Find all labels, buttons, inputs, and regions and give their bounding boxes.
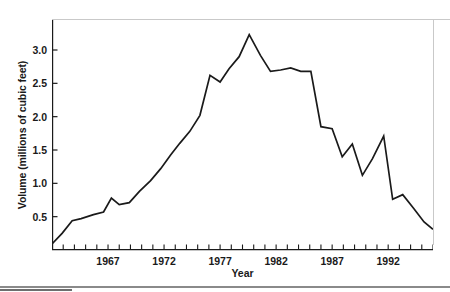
- x-tick-label: 1977: [200, 256, 240, 267]
- y-tick-label: 2.0: [21, 112, 47, 122]
- x-tick-label: 1982: [256, 256, 296, 267]
- x-tick-label: 1972: [144, 256, 184, 267]
- figure-bottom-rule: [0, 286, 450, 288]
- y-tick-label: 1.5: [21, 145, 47, 155]
- line-chart-svg: [52, 20, 433, 252]
- x-tick-label: 1987: [312, 256, 352, 267]
- y-tick-label: 0.5: [21, 212, 47, 222]
- figure-right-rule: [433, 19, 434, 245]
- data-series-volume: [52, 35, 433, 244]
- figure-bottom-rule-accent: [0, 289, 72, 291]
- y-tick-label: 1.0: [21, 178, 47, 188]
- y-tick-label: 2.5: [21, 78, 47, 88]
- plot-area: Volume (millions of cubic feet) 0.51.01.…: [52, 20, 433, 250]
- x-tick-label: 1992: [368, 256, 408, 267]
- x-tick-label: 1967: [88, 256, 128, 267]
- x-axis-title: Year: [52, 267, 433, 279]
- figure-frame: Volume (millions of cubic feet) 0.51.01.…: [0, 0, 450, 292]
- y-tick-label: 3.0: [21, 45, 47, 55]
